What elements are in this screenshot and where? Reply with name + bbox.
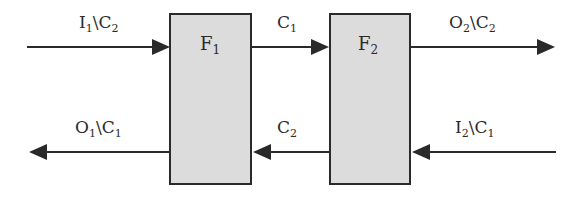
label-input-top-left: I1\C2 [79, 14, 118, 34]
label-output-top-right: O2\C2 [449, 14, 496, 34]
arrow-f1-to-f2 [251, 39, 329, 55]
label-output-bottom-left: O1\C1 [75, 119, 122, 139]
label-input-bottom-right: I2\C1 [455, 119, 494, 139]
arrow-output-bottom-left [29, 144, 170, 160]
arrow-f2-to-f1 [253, 144, 330, 160]
arrow-output-top-right [410, 39, 555, 55]
label-f1-to-f2: C1 [277, 14, 297, 34]
arrow-input-bottom-right [412, 144, 556, 160]
arrow-input-top-left [27, 39, 170, 55]
label-f2-to-f1: C2 [277, 119, 297, 139]
box-f2-label: F2 [358, 35, 378, 56]
box-f1-label: F1 [200, 35, 220, 56]
